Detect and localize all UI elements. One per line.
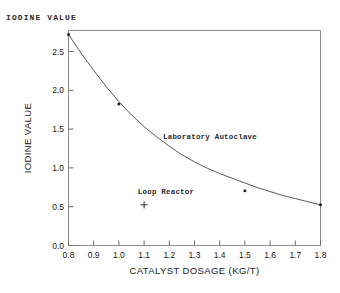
y-tick-label: 0.5: [52, 202, 64, 212]
x-tick-label: 1.6: [264, 250, 276, 260]
series-laboratory-autoclave-curve: [69, 34, 321, 204]
x-tick-label: 1.8: [315, 250, 327, 260]
y-tick-label: 2.5: [52, 47, 64, 57]
x-tick-labels: 0.8 0.9 1.0 1.1 1.2 1.3 1.4 1.5 1.6 1.7 …: [63, 250, 327, 260]
x-tick-label: 1.1: [138, 250, 150, 260]
y-tick-label: 2.0: [52, 85, 64, 95]
x-tick-label: 1.5: [239, 250, 251, 260]
x-tick-label: 1.0: [113, 250, 125, 260]
x-tick-label: 1.4: [214, 250, 226, 260]
x-axis-title: CATALYST DOSAGE (KG/T): [129, 265, 259, 276]
x-axis-ticks: [69, 241, 321, 246]
x-tick-label: 1.7: [289, 250, 301, 260]
data-point-marker: [117, 102, 120, 105]
chart-corner-title: IODINE VALUE: [6, 13, 77, 22]
y-axis-ticks: [69, 52, 74, 246]
y-tick-labels: 0.0 0.5 1.0 1.5 2.0 2.5: [52, 47, 64, 251]
data-point-marker: [319, 203, 322, 206]
x-tick-label: 1.2: [163, 250, 175, 260]
data-point-markers: [67, 33, 322, 208]
chart-figure: IODINE VALUE 0.0 0.5 1.0 1.5 2.0 2.5: [0, 0, 340, 293]
y-tick-label: 0.0: [52, 241, 64, 251]
annotation-laboratory-autoclave: Laboratory Autoclave: [163, 133, 257, 141]
annotation-loop-reactor: Loop Reactor: [138, 188, 194, 196]
data-point-marker: [243, 189, 246, 192]
x-tick-label: 0.9: [88, 250, 100, 260]
y-tick-label: 1.5: [52, 124, 64, 134]
x-tick-label: 1.3: [189, 250, 201, 260]
data-point-marker: [67, 33, 70, 36]
x-tick-label: 0.8: [63, 250, 75, 260]
chart-svg: 0.0 0.5 1.0 1.5 2.0 2.5 0.8 0.9 1.0 1: [0, 0, 340, 293]
loop-reactor-plus-marker: [141, 201, 148, 208]
y-axis-title: IODINE VALUE: [22, 103, 33, 174]
y-tick-label: 1.0: [52, 163, 64, 173]
